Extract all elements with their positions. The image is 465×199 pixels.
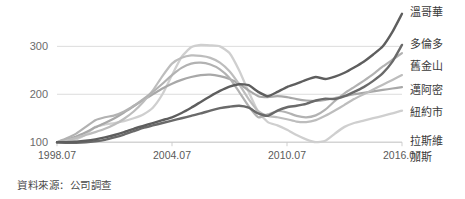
series-line-4	[57, 75, 402, 143]
x-axis-label-0: 1998.07	[38, 149, 76, 161]
legend-item-0: 溫哥華	[410, 5, 443, 19]
series-line-2	[57, 53, 402, 142]
x-axis-label-1: 2004.07	[153, 149, 191, 161]
chart-container: 100200300 1998.072004.072010.072016.07 溫…	[0, 0, 465, 199]
x-axis-label-2: 2010.07	[268, 149, 306, 161]
legend-item-3: 邁阿密	[410, 83, 443, 97]
y-axis-label-300: 300	[30, 40, 48, 52]
series-lines	[57, 14, 402, 143]
legend-item-6: 加斯	[410, 151, 432, 164]
x-axis-ticks: 1998.072004.072010.072016.07	[38, 142, 421, 161]
y-axis-label-200: 200	[30, 88, 48, 100]
legend-item-2: 舊金山	[410, 59, 443, 73]
y-axis-ticks: 100200300	[30, 40, 48, 148]
legend-item-4: 紐約市	[410, 105, 443, 119]
source-note: 資料來源：公司調查	[17, 177, 112, 192]
legend: 溫哥華多倫多舊金山邁阿密紐約市拉斯維加斯	[410, 5, 443, 164]
legend-item-5: 拉斯維	[410, 134, 443, 148]
legend-item-1: 多倫多	[410, 37, 443, 51]
y-axis-label-100: 100	[30, 136, 48, 148]
line-chart: 100200300 1998.072004.072010.072016.07 溫…	[0, 0, 465, 199]
